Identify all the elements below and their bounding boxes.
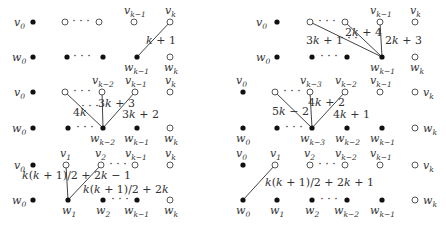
vertex-label: wk [423,194,437,209]
hollow-vertex-icon [272,89,278,95]
vertex-label: w0 [12,194,26,209]
filled-vertex-icon [379,125,384,130]
vertex-v-2: v2 [95,147,106,168]
vertex-w-k−1: wk−1 [370,54,395,76]
vertex-w-k: wk [412,122,437,137]
hollow-vertex-icon [62,19,68,25]
vertex-label: v1 [270,147,281,162]
vertex-v-k−3: vk−3 [300,74,322,95]
vertex-label: wk−1 [370,132,395,147]
vertex-w-k−2: wk−2 [90,125,115,147]
vertex-label: w2 [96,204,110,219]
vertex-w-k: wk [164,125,178,147]
hollow-vertex-icon [62,89,68,95]
hollow-vertex-icon [307,19,313,25]
ellipsis: · · · [320,50,337,63]
hollow-vertex-icon [412,89,418,95]
hollow-vertex-icon [412,125,418,131]
ellipsis: · · · [318,15,335,28]
ellipsis: · · · [283,85,300,98]
vertex [100,54,105,59]
vertex-label: v1 [60,147,71,162]
vertex [272,89,278,95]
edge-weight-label: 2k + 3 [385,34,422,47]
filled-vertex-icon [240,89,245,94]
vertex-label: v0 [14,86,25,101]
filled-vertex-icon [274,125,279,130]
hollow-vertex-icon [272,162,278,168]
panel-top-right: · · ·· · ·· · ·v0vk−1vkw0wk−1wk3k + 12k … [256,4,424,76]
filled-vertex-icon [30,125,35,130]
vertex-label: v0 [236,74,247,89]
vertex-w-k: wk [164,54,178,76]
hollow-vertex-icon [342,89,348,95]
hollow-vertex-icon [377,89,383,95]
ellipsis: · · · [73,50,90,63]
vertex-label: wk [410,61,424,76]
vertex-v-2: v2 [304,147,315,168]
vertex-v-k−1: vk−1 [370,4,392,25]
filled-vertex-icon [274,197,279,202]
vertex-label: w0 [236,132,250,147]
vertex-label: vk−1 [125,147,147,162]
hollow-vertex-icon [167,197,173,203]
vertex-v-k−2: vk−2 [92,74,114,95]
vertex-label: vk−1 [125,74,147,89]
filled-vertex-icon [100,197,105,202]
vertex-w-0: w0 [12,122,36,137]
vertex-label: v0 [236,147,247,162]
edge-weight-label: k(k + 1)/2 + 2k − 1 [22,169,131,182]
hollow-vertex-icon [412,162,418,168]
vertex-v-k: vk [165,147,176,168]
filled-vertex-icon [100,54,105,59]
edge-weight-label: k(k + 1)/2 + 2k [83,183,169,196]
vertex-label: w1 [62,204,76,219]
vertex-label: w2 [305,204,319,219]
vertex-v-k−1: vk−1 [125,74,147,95]
edge-weight-label: 4k [73,106,87,119]
edge-weight-label: 3k + 2 [122,108,159,121]
vertex-label: w0 [12,51,26,66]
vertex-v-k: vk [165,74,176,95]
vertex-v-0: v0 [256,16,280,31]
hollow-vertex-icon [377,19,383,25]
vertex-w-k−1: wk−1 [124,125,149,147]
vertex-label: v2 [304,147,315,162]
vertex-w-1: w1 [270,197,284,219]
vertex-label: wk−1 [370,204,395,219]
ellipsis: · · · [73,85,90,98]
vertex [342,19,348,25]
hollow-vertex-icon [63,162,69,168]
vertex-v-k: vk [412,159,434,174]
filled-vertex-icon [379,54,384,59]
vertex-w-k: wk [412,194,437,209]
filled-vertex-icon [240,162,245,167]
edge-weight-label: k(k + 1)/2 + 2k + 1 [265,176,374,189]
panel-bottom-left: · · ·· · ·v0v1v2vk−1vkw0w1w2wk−1wkk(k + … [12,147,178,219]
filled-vertex-icon [240,197,245,202]
edge-weight-label: 3k + 1 [306,34,343,47]
vertex [65,125,70,130]
edge-weight-label: 4k + 1 [333,108,370,121]
filled-vertex-icon [274,19,279,24]
vertex-label: wk−2 [90,132,115,147]
vertex-w-k−2: wk−2 [335,125,360,147]
vertex-label: vk [410,4,421,19]
vertex-label: w0 [12,122,26,137]
vertex-label: vk−1 [124,4,146,19]
vertex-label: vk [423,86,434,101]
vertex-w-k: wk [164,197,178,219]
filled-vertex-icon [134,125,139,130]
filled-vertex-icon [64,54,69,59]
panel-bottom-right: · · ·· · ·v0v1v2vk−2vk−1vkw0w1w2wk−2wk−1… [236,147,437,219]
vertex-v-k−1: vk−1 [370,74,392,95]
vertex-label: v0 [256,16,267,31]
vertex-label: wk [164,204,178,219]
hollow-vertex-icon [167,19,173,25]
vertex-v-k−2: vk−2 [335,147,357,168]
edge-weight-label: 5k − 2 [272,105,309,118]
vertex-label: v2 [95,147,106,162]
filled-vertex-icon [30,19,35,24]
edge-weight-label: 2k + 4 [345,26,382,39]
filled-vertex-icon [274,54,279,59]
